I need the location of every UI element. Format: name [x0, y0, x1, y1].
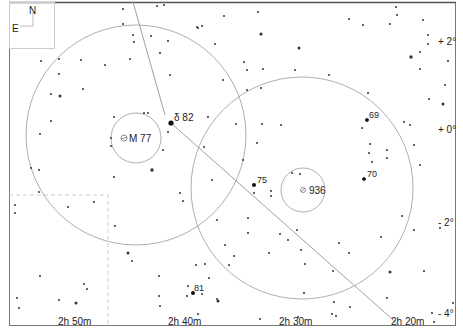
- dec-label: + 2°: [438, 36, 456, 47]
- ra-label: 2h 20m: [391, 316, 424, 327]
- dec-label: - 4°: [438, 308, 454, 319]
- star-label-81: 81: [194, 283, 204, 293]
- dec-label: - 2°: [438, 217, 454, 228]
- star-label-70: 70: [367, 169, 377, 179]
- ra-label: 2h 50m: [58, 316, 91, 327]
- object-label-m77: M 77: [129, 133, 152, 144]
- star-label-delta-82: δ 82: [174, 112, 194, 123]
- ra-label: 2h 40m: [168, 316, 201, 327]
- ra-label: 2h 30m: [279, 316, 312, 327]
- dec-label: + 0°: [438, 124, 456, 135]
- north-label: N: [29, 5, 36, 16]
- star-label-75: 75: [257, 175, 267, 185]
- star-label-69: 69: [369, 110, 379, 120]
- star-chart: N E: [0, 0, 463, 332]
- chart-frame: [10, 3, 456, 326]
- east-label: E: [12, 23, 19, 34]
- object-label-936: 936: [309, 185, 326, 196]
